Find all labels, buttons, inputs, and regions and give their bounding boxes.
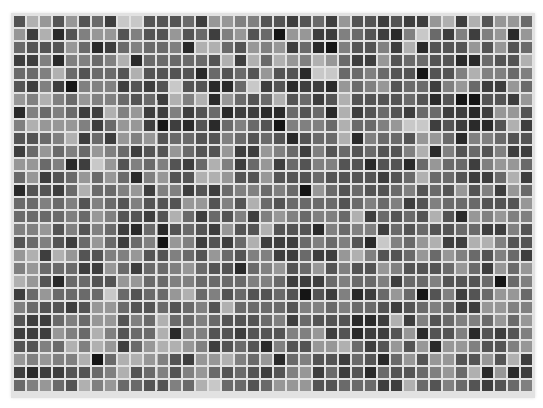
mosaic-cell xyxy=(287,250,298,261)
mosaic-cell xyxy=(53,250,64,261)
mosaic-cell xyxy=(235,120,246,131)
mosaic-cell xyxy=(157,289,168,300)
mosaic-cell xyxy=(378,380,389,391)
mosaic-cell xyxy=(443,159,454,170)
mosaic-cell xyxy=(404,341,415,352)
mosaic-cell xyxy=(352,380,363,391)
mosaic-cell xyxy=(300,302,311,313)
mosaic-cell xyxy=(313,42,324,53)
mosaic-cell xyxy=(53,81,64,92)
mosaic-cell xyxy=(287,172,298,183)
mosaic-cell xyxy=(287,55,298,66)
mosaic-cell xyxy=(248,276,259,287)
mosaic-cell xyxy=(469,94,480,105)
mosaic-cell xyxy=(118,146,129,157)
mosaic-cell xyxy=(40,302,51,313)
mosaic-cell xyxy=(326,185,337,196)
mosaic-cell xyxy=(209,42,220,53)
mosaic-cell xyxy=(339,276,350,287)
mosaic-cell xyxy=(313,289,324,300)
mosaic-cell xyxy=(183,263,194,274)
mosaic-cell xyxy=(339,224,350,235)
mosaic-cell xyxy=(66,211,77,222)
mosaic-cell xyxy=(170,81,181,92)
mosaic-cell xyxy=(508,250,519,261)
mosaic-cell xyxy=(261,29,272,40)
mosaic-cell xyxy=(417,68,428,79)
mosaic-cell xyxy=(235,107,246,118)
mosaic-cell xyxy=(248,68,259,79)
mosaic-cell xyxy=(521,367,532,378)
mosaic-cell xyxy=(378,224,389,235)
mosaic-cell xyxy=(430,341,441,352)
mosaic-cell xyxy=(131,289,142,300)
mosaic-cell xyxy=(170,16,181,27)
mosaic-cell xyxy=(79,107,90,118)
mosaic-cell xyxy=(300,42,311,53)
mosaic-cell xyxy=(287,211,298,222)
mosaic-cell xyxy=(105,42,116,53)
mosaic-cell xyxy=(300,328,311,339)
mosaic-cell xyxy=(404,68,415,79)
mosaic-cell xyxy=(443,94,454,105)
mosaic-cell xyxy=(79,289,90,300)
mosaic-cell xyxy=(404,81,415,92)
mosaic-cell xyxy=(339,198,350,209)
mosaic-cell xyxy=(157,354,168,365)
mosaic-cell xyxy=(183,198,194,209)
mosaic-cell xyxy=(404,198,415,209)
mosaic-cell xyxy=(365,367,376,378)
mosaic-cell xyxy=(469,42,480,53)
mosaic-cell xyxy=(79,172,90,183)
mosaic-cell xyxy=(131,120,142,131)
mosaic-cell xyxy=(27,354,38,365)
mosaic-cell xyxy=(14,120,25,131)
mosaic-cell xyxy=(261,159,272,170)
mosaic-cell xyxy=(144,94,155,105)
mosaic-cell xyxy=(274,224,285,235)
mosaic-cell xyxy=(261,185,272,196)
mosaic-cell xyxy=(417,211,428,222)
mosaic-cell xyxy=(209,237,220,248)
mosaic-cell xyxy=(209,367,220,378)
mosaic-cell xyxy=(40,81,51,92)
mosaic-cell xyxy=(378,16,389,27)
mosaic-cell xyxy=(105,289,116,300)
mosaic-cell xyxy=(378,29,389,40)
mosaic-cell xyxy=(235,263,246,274)
mosaic-cell xyxy=(222,120,233,131)
mosaic-cell xyxy=(313,198,324,209)
mosaic-cell xyxy=(300,198,311,209)
mosaic-cell xyxy=(14,107,25,118)
mosaic-cell xyxy=(508,354,519,365)
mosaic-cell xyxy=(365,94,376,105)
mosaic-cell xyxy=(417,159,428,170)
mosaic-cell xyxy=(469,237,480,248)
mosaic-cell xyxy=(508,172,519,183)
mosaic-cell xyxy=(79,380,90,391)
mosaic-cell xyxy=(352,328,363,339)
mosaic-cell xyxy=(53,55,64,66)
mosaic-cell xyxy=(430,289,441,300)
mosaic-cell xyxy=(118,237,129,248)
mosaic-cell xyxy=(430,120,441,131)
mosaic-cell xyxy=(196,29,207,40)
mosaic-cell xyxy=(92,224,103,235)
mosaic-cell xyxy=(92,302,103,313)
mosaic-cell xyxy=(53,211,64,222)
mosaic-cell xyxy=(456,107,467,118)
mosaic-cell xyxy=(27,380,38,391)
mosaic-cell xyxy=(443,380,454,391)
mosaic-cell xyxy=(378,68,389,79)
mosaic-cell xyxy=(339,315,350,326)
mosaic-cell xyxy=(456,29,467,40)
mosaic-cell xyxy=(456,81,467,92)
mosaic-cell xyxy=(326,354,337,365)
mosaic-cell xyxy=(300,237,311,248)
mosaic-cell xyxy=(235,367,246,378)
mosaic-cell xyxy=(521,81,532,92)
mosaic-cell xyxy=(183,55,194,66)
mosaic-cell xyxy=(222,198,233,209)
mosaic-cell xyxy=(183,211,194,222)
mosaic-cell xyxy=(274,133,285,144)
